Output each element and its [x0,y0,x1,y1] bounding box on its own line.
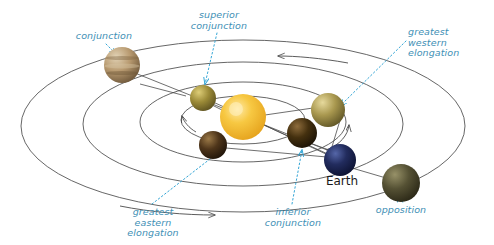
line-earth-to-eastern [226,148,327,157]
sun-glow [229,102,243,116]
label-earth: Earth [313,174,371,188]
planet-inferior-conjunction [287,118,317,148]
line-sun-left-outward [140,84,186,96]
celestial-bodies [104,47,420,202]
label-greatest-eastern-elongation: greatest eastern elongation [112,207,194,239]
earth [324,144,356,176]
label-superior-conjunction: superior conjunction [186,10,252,31]
planet-greatest-western [311,93,345,127]
arrow-innermost-left [182,116,196,132]
line-sun-right-outward [265,108,313,115]
planet-opposition [382,164,420,202]
label-opposition: opposition [368,205,434,216]
label-conjunction: conjunction [62,31,146,42]
planet-superior-conjunction [190,85,216,111]
leader-inferior-conjunction [292,150,302,204]
label-greatest-western-elongation: greatest western elongation [408,27,486,59]
label-inferior-conjunction: inferior conjunction [253,207,333,228]
planetary-configurations-diagram: conjunction superior conjunction greates… [0,0,494,245]
planet-greatest-eastern [199,131,227,159]
planet-conjunction-bands [104,56,139,75]
arrow-middle-top [278,56,348,63]
sun [220,94,266,140]
